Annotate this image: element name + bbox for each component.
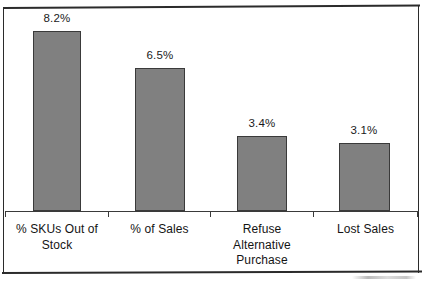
bar-refuse-alternative-purchase[interactable] [237, 136, 287, 211]
x-axis-label-line: Refuse [211, 222, 313, 238]
bar-value-label-4: 3.1% [334, 124, 394, 136]
x-axis-label-refuse-alternative-purchase: Refuse Alternative Purchase [211, 222, 313, 269]
x-axis-tick-4 [417, 211, 418, 217]
scan-artifact-smudge [352, 276, 416, 279]
x-axis-label-lost-sales: Lost Sales [314, 222, 417, 238]
x-axis-label-percent-of-sales: % of Sales [109, 222, 210, 238]
x-axis-tick-3 [313, 211, 314, 217]
x-axis-label-line: Lost Sales [314, 222, 417, 238]
x-axis-label-line: Stock [6, 238, 108, 254]
x-axis-label-line: % SKUs Out of [6, 222, 108, 238]
x-axis-label-line: Purchase [211, 253, 313, 269]
bar-value-label-2: 6.5% [130, 49, 190, 61]
bar-sku-out-of-stock[interactable] [33, 31, 81, 211]
bar-percent-of-sales[interactable] [135, 68, 185, 211]
x-axis-tick-0 [5, 211, 6, 217]
x-axis-tick-2 [210, 211, 211, 217]
bar-value-label-1: 8.2% [27, 12, 87, 24]
x-axis-tick-1 [108, 211, 109, 217]
bar-value-label-3: 3.4% [232, 117, 292, 129]
x-axis-line [5, 211, 419, 213]
x-axis-label-line: % of Sales [109, 222, 210, 238]
x-axis-label-line: Alternative [211, 238, 313, 254]
x-axis-label-sku-out-of-stock: % SKUs Out of Stock [6, 222, 108, 253]
bar-lost-sales[interactable] [339, 143, 390, 211]
chart-screenshot: 8.2% 6.5% 3.4% 3.1% % SKUs Out of Stock … [0, 0, 424, 282]
bar-chart-plot-area: 8.2% 6.5% 3.4% 3.1% % SKUs Out of Stock … [0, 0, 424, 282]
